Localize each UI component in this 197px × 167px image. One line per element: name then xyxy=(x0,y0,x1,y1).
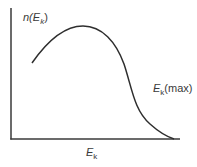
y-axis-label: n(Ek) xyxy=(23,12,48,26)
x-axis-label: Ek xyxy=(86,147,97,161)
y-axis-label-close: ) xyxy=(44,11,48,23)
x-axis-label-sub: k xyxy=(93,152,97,161)
y-axis-label-main: n(E xyxy=(23,11,40,23)
max-energy-annotation: Ek(max) xyxy=(153,83,192,97)
annotation-rest: (max) xyxy=(164,82,192,94)
